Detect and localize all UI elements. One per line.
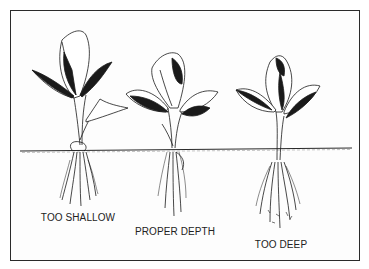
plant-proper-depth [126,53,218,216]
label-proper-depth: PROPER DEPTH [135,227,215,237]
plant-too-shallow [32,31,128,206]
label-too-shallow: TOO SHALLOW [41,213,115,223]
ground-line [20,148,352,153]
plant-too-deep [236,56,320,228]
label-too-deep: TOO DEEP [255,240,307,250]
